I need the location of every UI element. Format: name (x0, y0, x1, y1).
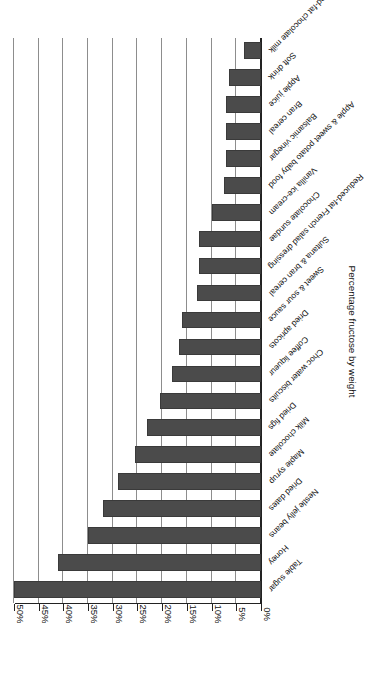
axis-tick (14, 604, 15, 611)
axis-tick (162, 604, 163, 611)
category-label: Honey (267, 543, 290, 566)
bar-row (15, 258, 261, 275)
bar-row (15, 150, 261, 167)
axis-tick (236, 604, 237, 611)
fructose-bar-chart: 0%5%10%15%20%25%30%35%40%45%50% Table su… (0, 0, 384, 674)
bar-series (15, 38, 261, 603)
category-label: Nestle jelly beans (267, 487, 320, 540)
bar (226, 123, 261, 140)
bar-row (15, 446, 261, 463)
bar-row (15, 581, 261, 598)
bar-row (15, 554, 261, 571)
chart-figure: 0%5%10%15%20%25%30%35%40%45%50% Table su… (0, 0, 384, 674)
bar (58, 554, 261, 571)
bar-row (15, 69, 261, 86)
bar (244, 42, 261, 59)
bar-row (15, 500, 261, 517)
value-axis-ticks (15, 604, 262, 612)
axis-tick (63, 604, 64, 611)
bar (226, 96, 261, 113)
bar-row (15, 123, 261, 140)
category-label: Balsamic vinegar (267, 111, 318, 162)
axis-tick (261, 604, 262, 611)
bar (172, 366, 261, 383)
category-label: Reduced-fat chocolate milk (267, 0, 345, 55)
bar-row (15, 419, 261, 436)
bar (103, 500, 261, 517)
bar (199, 258, 261, 275)
bar-row (15, 96, 261, 113)
bar (199, 231, 261, 248)
axis-tick (39, 604, 40, 611)
bar-row (15, 177, 261, 194)
bar (212, 204, 261, 221)
bar (197, 285, 261, 302)
bar (14, 581, 261, 598)
axis-tick (187, 604, 188, 611)
bar (180, 339, 262, 356)
bar-row (15, 339, 261, 356)
bar-row (15, 231, 261, 248)
bar-row (15, 285, 261, 302)
bar-row (15, 527, 261, 544)
axis-tick (212, 604, 213, 611)
axis-tick (138, 604, 139, 611)
bar (182, 312, 261, 329)
value-axis-tick-labels: 0%5%10%15%20%25%30%35%40%45%50% (15, 614, 262, 662)
bar (118, 473, 261, 490)
bar-row (15, 312, 261, 329)
bar (226, 150, 261, 167)
axis-tick (113, 604, 114, 611)
bar-row (15, 393, 261, 410)
plot-area (15, 38, 262, 604)
gridline (13, 38, 14, 603)
category-axis-labels: Table sugarHoneyNestle jelly beansDried … (262, 38, 384, 604)
bar (160, 393, 261, 410)
bar (224, 177, 261, 194)
bar-row (15, 366, 261, 383)
bar (229, 69, 261, 86)
axis-tick (88, 604, 89, 611)
bar-row (15, 204, 261, 221)
category-label: Vanilla ice-cream (267, 165, 318, 216)
bar (135, 446, 261, 463)
bar (88, 527, 261, 544)
bar-row (15, 42, 261, 59)
value-axis-title: Percentage fructose by weight (347, 232, 358, 432)
bar-row (15, 473, 261, 490)
bar (147, 419, 261, 436)
